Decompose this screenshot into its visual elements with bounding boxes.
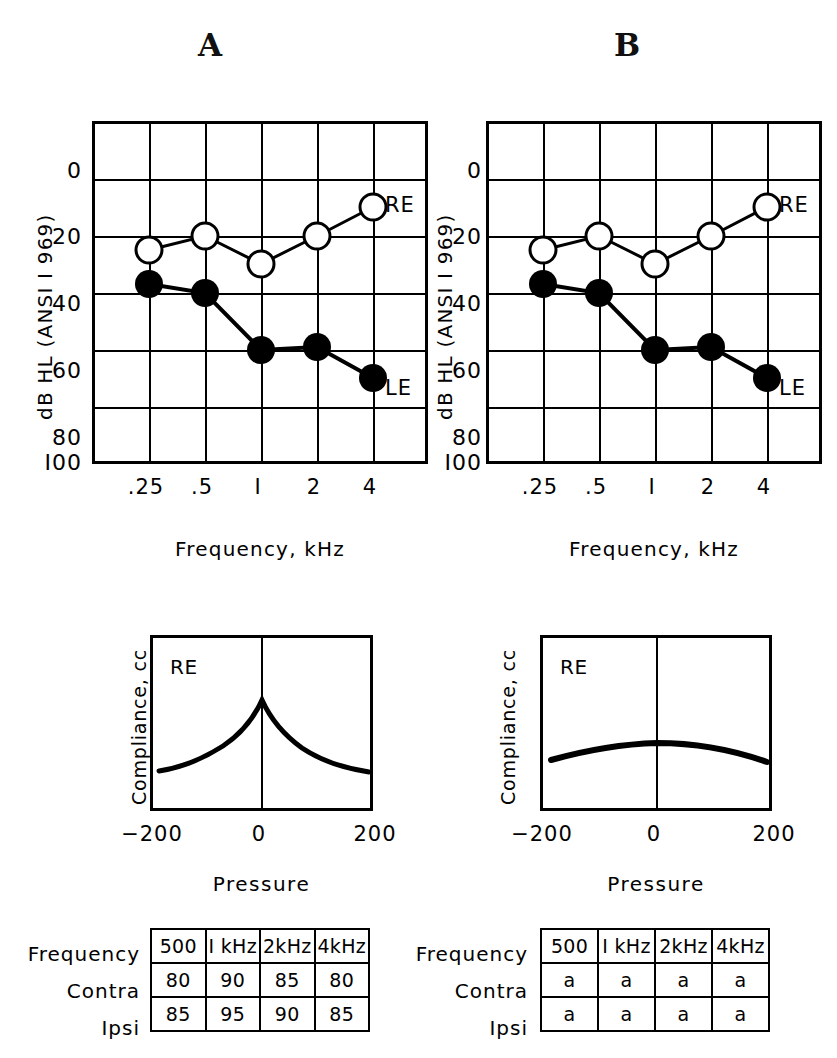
reflex-a-row-labels: Frequency Contra Ipsi	[20, 928, 140, 1030]
tympanogram-b-ear-label: RE	[560, 657, 588, 677]
reflex-b-header-4khz: 4kHz	[712, 929, 769, 963]
reflex-b-header-2khz: 2kHz	[655, 929, 712, 963]
reflex-a-ipsi-4khz: 85	[315, 997, 370, 1031]
tympanogram-b-y-axis-label: Compliance, cc	[497, 649, 519, 805]
reflex-a-contra-4khz: 80	[315, 963, 370, 997]
reflex-table-b: 500 I kHz 2kHz 4kHz a a a a a a a a	[540, 928, 770, 1032]
reflex-b-row-label-ipsi: Ipsi	[489, 1018, 528, 1038]
reflex-table-a: 500 I kHz 2kHz 4kHz 80 90 85 80 85 95 90…	[150, 928, 370, 1032]
reflex-b-header-1khz: I kHz	[598, 929, 655, 963]
reflex-a-header-4khz: 4kHz	[315, 929, 370, 963]
reflex-a-contra-500: 80	[151, 963, 206, 997]
reflex-b-header-500: 500	[541, 929, 598, 963]
reflex-b-contra-1khz: a	[598, 963, 655, 997]
table-row: 80 90 85 80	[151, 963, 369, 997]
table-row: 500 I kHz 2kHz 4kHz	[541, 929, 769, 963]
table-row: a a a a	[541, 963, 769, 997]
reflex-b-contra-2khz: a	[655, 963, 712, 997]
reflex-a-ipsi-500: 85	[151, 997, 206, 1031]
tympanogram-panel-b: Compliance, cc RE −200 0 200 Pressure	[0, 0, 837, 1058]
reflex-a-header-2khz: 2kHz	[260, 929, 315, 963]
reflex-a-ipsi-2khz: 90	[260, 997, 315, 1031]
reflex-a-row-label-ipsi: Ipsi	[101, 1018, 140, 1038]
reflex-b-ipsi-500: a	[541, 997, 598, 1031]
reflex-a-contra-1khz: 90	[206, 963, 261, 997]
table-row: 500 I kHz 2kHz 4kHz	[151, 929, 369, 963]
reflex-a-contra-2khz: 85	[260, 963, 315, 997]
reflex-b-row-label-contra: Contra	[455, 981, 528, 1001]
reflex-b-contra-500: a	[541, 963, 598, 997]
tympanogram-b-xtick-neg200: −200	[502, 822, 582, 846]
reflex-b-row-labels: Frequency Contra Ipsi	[408, 928, 528, 1030]
tympanogram-b-xtick-200: 200	[734, 822, 814, 846]
reflex-b-ipsi-4khz: a	[712, 997, 769, 1031]
reflex-b-contra-4khz: a	[712, 963, 769, 997]
tympanogram-b-x-axis-label: Pressure	[540, 872, 772, 896]
reflex-a-header-500: 500	[151, 929, 206, 963]
reflex-a-row-label-contra: Contra	[67, 981, 140, 1001]
reflex-b-ipsi-2khz: a	[655, 997, 712, 1031]
table-row: a a a a	[541, 997, 769, 1031]
table-row: 85 95 90 85	[151, 997, 369, 1031]
reflex-a-header-1khz: I kHz	[206, 929, 261, 963]
audiology-figure: A B dB HL (ANSI I 969) 0 20 40 60 80 I00	[0, 0, 837, 1058]
tympanogram-b-xtick-0: 0	[617, 822, 691, 846]
reflex-a-ipsi-1khz: 95	[206, 997, 261, 1031]
reflex-a-row-label-frequency: Frequency	[28, 944, 140, 964]
reflex-b-ipsi-1khz: a	[598, 997, 655, 1031]
reflex-b-row-label-frequency: Frequency	[416, 944, 528, 964]
